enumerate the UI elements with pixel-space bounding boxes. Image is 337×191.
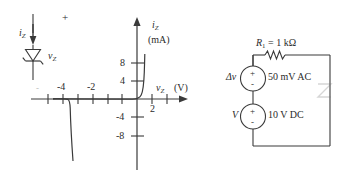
y-tick-label-4: 4 xyxy=(120,76,125,86)
x-tick-label--2: -2 xyxy=(87,82,95,92)
diode-voltage-label: vZ xyxy=(48,51,56,63)
x-axis-label: vZ xyxy=(156,83,164,95)
ac-source-minus: - xyxy=(251,80,254,89)
y-tick-label--8: -8 xyxy=(116,131,124,141)
y-tick-label--4: -4 xyxy=(116,112,124,122)
dc-source-value: 10 V DC xyxy=(268,110,304,120)
circuit-zener-glyph xyxy=(318,84,331,97)
diode-polarity-plus: + xyxy=(62,12,68,23)
iv-characteristic-curve xyxy=(53,54,145,161)
dc-source-minus: - xyxy=(251,118,254,127)
y-tick-label-8: 8 xyxy=(120,58,125,68)
dc-source-plus: + xyxy=(250,107,255,116)
ac-source-plus: + xyxy=(250,69,255,78)
ac-source-value: 50 mV AC xyxy=(268,72,311,82)
ac-source-symbol: Δv xyxy=(226,72,236,82)
figure-artwork xyxy=(0,0,337,191)
x-tick-label-faint: - xyxy=(36,84,39,93)
figure-canvas: iZ + vZ iZ (mA) vZ (V) - -4 -2 2 8 4 -4 … xyxy=(0,0,337,191)
dc-source-symbol: V xyxy=(232,110,238,120)
resistor-label: R1 = 1 kΩ xyxy=(256,38,296,50)
diode-current-label: iZ xyxy=(19,28,26,40)
zener-diode-symbol xyxy=(23,14,43,80)
bias-circuit xyxy=(241,51,331,146)
y-axis-units: (mA) xyxy=(148,35,170,45)
x-tick-label-2: 2 xyxy=(150,104,155,114)
y-axis-label: iZ xyxy=(152,20,159,32)
x-axis-units: (V) xyxy=(174,83,188,93)
x-tick-label--4: -4 xyxy=(57,82,65,92)
